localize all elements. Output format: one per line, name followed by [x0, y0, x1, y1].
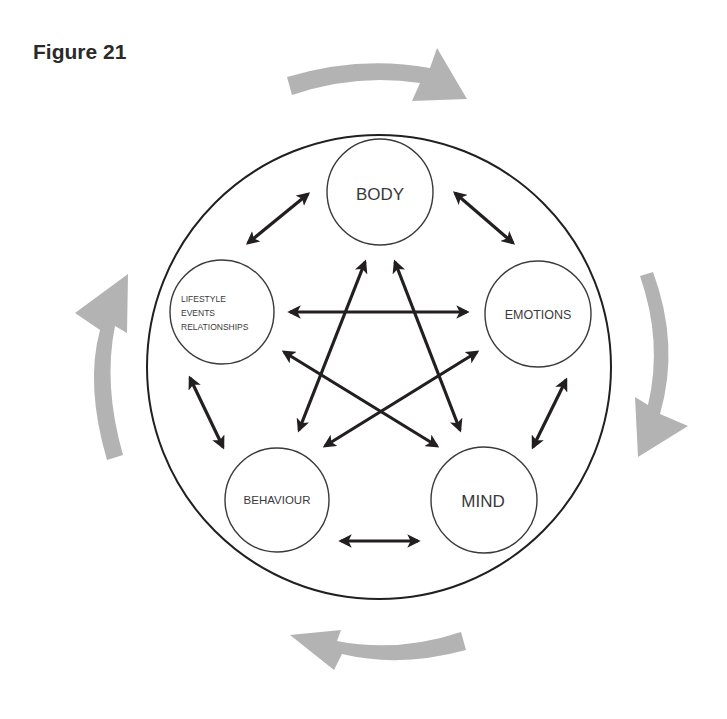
- arrow-behaviour-lifestyle-icon: [190, 378, 223, 447]
- star-arrows: [284, 262, 477, 446]
- cycle-arrow-left-icon: [75, 274, 128, 460]
- node-mind-label: MIND: [461, 492, 504, 511]
- cycle-arrow-bottom-icon: [290, 630, 466, 670]
- node-lifestyle-label-line1: LIFESTYLE: [181, 294, 226, 304]
- cycle-arrow-right-icon: [635, 272, 688, 457]
- arrow-emotions-mind-icon: [533, 380, 566, 447]
- cycle-arrow-top-icon: [287, 48, 467, 101]
- arrow-body-mind-icon: [395, 262, 460, 430]
- arrow-body-emotions-icon: [455, 193, 513, 243]
- holistic-cycle-diagram: BODY EMOTIONS MIND BEHAVIOUR LIFESTYLE E…: [0, 0, 727, 719]
- node-behaviour: BEHAVIOUR: [225, 448, 329, 552]
- node-body: BODY: [327, 139, 433, 245]
- arrow-body-behaviour-icon: [299, 262, 365, 430]
- node-lifestyle: LIFESTYLE EVENTS RELATIONSHIPS: [170, 260, 274, 364]
- node-emotions: EMOTIONS: [485, 261, 591, 367]
- arrow-emotions-behaviour-icon: [325, 352, 477, 446]
- node-body-label: BODY: [356, 185, 404, 204]
- node-lifestyle-label-line2: EVENTS: [181, 308, 215, 318]
- node-emotions-label: EMOTIONS: [505, 308, 572, 322]
- arrow-lifestyle-mind-icon: [284, 352, 437, 446]
- node-behaviour-label: BEHAVIOUR: [244, 494, 311, 506]
- node-mind: MIND: [431, 447, 537, 553]
- node-lifestyle-label-line3: RELATIONSHIPS: [181, 322, 249, 332]
- arrow-lifestyle-body-icon: [248, 194, 308, 243]
